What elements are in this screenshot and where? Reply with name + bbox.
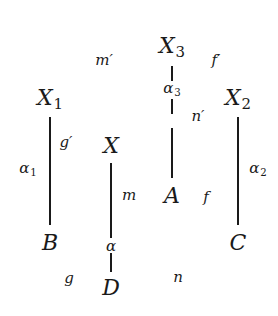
label-base: D (102, 275, 120, 300)
label-subscript: 1 (54, 96, 64, 114)
edge-label-g: g (64, 271, 74, 286)
label-base: X (103, 133, 119, 158)
edge-label-m_prime: m′ (95, 53, 113, 68)
label-subscript: 3 (174, 87, 180, 98)
edge-label-alpha3: α3 (163, 81, 181, 98)
label-subscript: 1 (30, 167, 36, 178)
label-base: α (163, 79, 173, 97)
label-base: g (64, 269, 74, 287)
label-subscript: 3 (176, 44, 186, 62)
label-subscript: 2 (242, 96, 252, 114)
node-X2: X2 (225, 87, 251, 112)
label-base: m (122, 186, 136, 204)
node-X: X (103, 135, 119, 157)
edge-label-f: f (203, 190, 209, 205)
edge-X1-B (49, 117, 50, 225)
node-X3: X3 (159, 35, 185, 60)
label-base: X (159, 33, 175, 58)
label-base: α (19, 159, 29, 177)
label-base: C (230, 230, 247, 255)
edge-X3-A (171, 128, 172, 178)
label-base: f′ (212, 51, 221, 69)
label-base: X (225, 85, 241, 110)
edge-label-alpha2: α2 (249, 161, 267, 178)
node-X1: X1 (37, 87, 63, 112)
edge-label-n: n (173, 270, 183, 285)
label-subscript: 2 (260, 167, 266, 178)
edge-label-g_prime: g′ (59, 135, 72, 150)
label-base: α (249, 159, 259, 177)
edge-label-n_prime: n′ (191, 109, 204, 124)
label-base: α (106, 237, 116, 255)
edge-X2-C (237, 117, 238, 225)
label-base: m′ (95, 51, 113, 69)
label-base: A (164, 183, 180, 208)
edge-X-D (110, 163, 111, 238)
node-B: B (42, 232, 58, 254)
edge-label-m: m (122, 188, 136, 203)
label-base: f (203, 188, 209, 206)
node-D: D (102, 277, 120, 299)
edge-X-D (110, 253, 111, 272)
edge-label-f_prime: f′ (212, 53, 221, 68)
label-base: n (173, 268, 183, 286)
node-A: A (164, 185, 180, 207)
label-base: B (42, 230, 58, 255)
edge-X3-A (171, 99, 172, 114)
edge-label-alpha1: α1 (19, 161, 37, 178)
label-base: n′ (191, 107, 204, 125)
node-C: C (230, 232, 247, 254)
label-base: g′ (59, 133, 72, 151)
label-base: X (37, 85, 53, 110)
edge-label-alpha: α (106, 239, 116, 254)
